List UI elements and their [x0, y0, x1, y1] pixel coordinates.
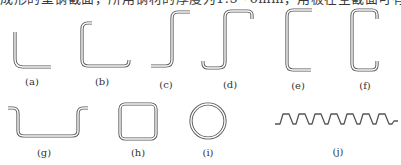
- label-j: (j): [333, 146, 344, 157]
- label-i: (i): [202, 147, 213, 158]
- shape-c-z-section: [151, 12, 190, 66]
- shape-g-hat-section: [8, 108, 88, 136]
- shape-f-lipped-channel-section: [352, 10, 377, 70]
- shape-e-channel-section: [287, 10, 312, 70]
- label-c: (c): [159, 79, 172, 90]
- cold-formed-sections-diagram: .outer { fill: none; stroke: #555; strok…: [0, 0, 401, 165]
- label-b: (b): [95, 76, 109, 87]
- label-d: (d): [223, 79, 237, 90]
- label-f: (f): [359, 80, 371, 91]
- label-a: (a): [25, 76, 39, 87]
- label-g: (g): [37, 147, 51, 158]
- shape-j-corrugated-sheet: [275, 114, 398, 124]
- shape-h-square-tube: [120, 104, 156, 139]
- shape-a-angle: [15, 32, 51, 67]
- shape-d-lipped-z-section: [203, 11, 252, 68]
- shape-b-lipped-angle: [82, 23, 129, 66]
- label-h: (h): [131, 147, 145, 158]
- label-e: (e): [291, 80, 305, 91]
- shape-i-circular-tube: [191, 104, 225, 138]
